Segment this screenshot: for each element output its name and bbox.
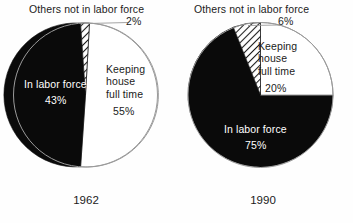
value-others-not-in-labor-force-1962: 2% xyxy=(126,15,141,27)
label-keeping-house-line1-1990: Keeping xyxy=(258,40,297,52)
label-keeping-house-1990: Keeping house full time xyxy=(258,40,297,77)
value-in-labor-force-1962: 43% xyxy=(45,94,66,106)
leader-line-others-1990 xyxy=(248,25,280,26)
label-keeping-house-line2-1962: house xyxy=(106,75,135,87)
year-label-1990: 1990 xyxy=(233,194,293,206)
pie-chart-figure: Others not in labor force 2% Keeping hou… xyxy=(0,0,353,223)
label-keeping-house-line1-1962: Keeping xyxy=(106,63,145,75)
year-label-1962: 1962 xyxy=(56,194,116,206)
value-in-labor-force-1990: 75% xyxy=(245,139,266,151)
label-keeping-house-line2-1990: house xyxy=(258,52,287,64)
leader-line-others-1962 xyxy=(88,23,128,24)
value-others-not-in-labor-force-1990: 6% xyxy=(278,15,293,27)
label-keeping-house-line3-1962: full time xyxy=(106,88,143,100)
chart-panel-1962: Others not in labor force 2% Keeping hou… xyxy=(0,0,177,223)
label-others-not-in-labor-force-1990: Others not in labor force xyxy=(194,3,309,15)
value-keeping-house-1990: 20% xyxy=(265,82,286,94)
label-in-labor-force-1962: In labor force xyxy=(24,78,87,90)
pie-1962 xyxy=(0,0,177,190)
chart-panel-1990: Others not in labor force 6% Keeping hou… xyxy=(176,0,353,223)
label-keeping-house-1962: Keeping house full time xyxy=(106,63,145,100)
label-in-labor-force-1990: In labor force xyxy=(224,123,287,135)
label-keeping-house-line3-1990: full time xyxy=(258,65,295,77)
value-keeping-house-1962: 55% xyxy=(113,105,134,117)
label-others-not-in-labor-force-1962: Others not in labor force xyxy=(29,3,144,15)
pie-1990 xyxy=(176,0,353,190)
